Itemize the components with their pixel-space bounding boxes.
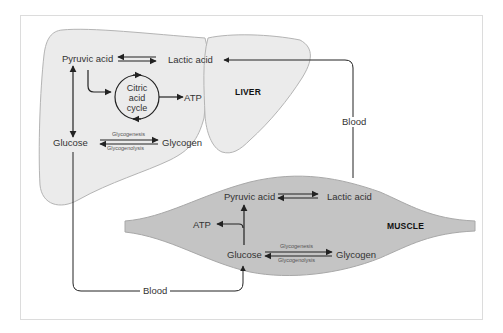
liver-glycogenolysis-label: Glycogenolysis bbox=[107, 146, 144, 152]
liver-pyruvic-acid-label: Pyruvic acid bbox=[62, 54, 113, 64]
muscle-glycogenolysis-label: Glycogenolysis bbox=[278, 258, 315, 264]
liver-glycogenesis-label: Glycogenesis bbox=[112, 132, 145, 138]
liver-atp-label: ATP bbox=[184, 93, 202, 103]
cori-cycle-diagram bbox=[0, 0, 503, 333]
muscle-atp-label: ATP bbox=[193, 220, 211, 230]
citric-acid-cycle-label: Citric acid cycle bbox=[120, 83, 154, 113]
muscle-lactic-acid-label: Lactic acid bbox=[327, 192, 372, 202]
muscle-pyruvic-acid-label: Pyruvic acid bbox=[224, 192, 275, 202]
muscle-glycogen-label: Glycogen bbox=[336, 250, 376, 260]
muscle-organ-label: MUSCLE bbox=[387, 222, 424, 231]
liver-lactic-acid-label: Lactic acid bbox=[168, 55, 213, 65]
blood-right-label: Blood bbox=[339, 117, 369, 127]
liver-glucose-label: Glucose bbox=[53, 138, 88, 148]
muscle-glycogenesis-label: Glycogenesis bbox=[280, 244, 313, 250]
muscle-glucose-label: Glucose bbox=[227, 250, 262, 260]
blood-bottom-label: Blood bbox=[140, 286, 170, 296]
liver-organ-label: LIVER bbox=[235, 88, 261, 97]
liver-glycogen-label: Glycogen bbox=[162, 138, 202, 148]
